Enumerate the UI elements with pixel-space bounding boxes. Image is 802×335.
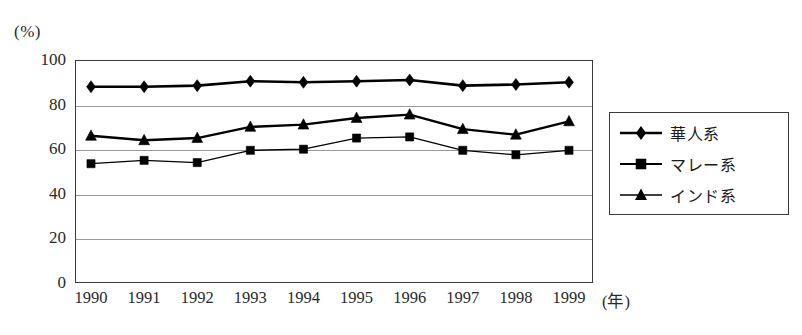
series-line (91, 137, 569, 164)
data-point-marker (458, 80, 467, 92)
y-tick-label: 100 (2, 50, 66, 70)
data-point-marker (193, 159, 201, 167)
data-point-marker (406, 133, 414, 141)
data-point-marker (352, 75, 361, 87)
x-tick-label: 1993 (234, 288, 267, 308)
data-point-marker (87, 81, 96, 93)
series-1 (87, 74, 574, 93)
y-tick-label: 40 (2, 184, 66, 204)
legend-item[interactable]: インド系 (618, 180, 736, 210)
data-point-marker (405, 74, 414, 86)
data-point-marker (511, 79, 520, 91)
y-tick-label: 80 (2, 95, 66, 115)
data-point-marker (512, 151, 520, 159)
x-tick-label: 1994 (287, 288, 320, 308)
data-point-marker (193, 80, 202, 92)
series-line (91, 115, 569, 141)
x-tick-label: 1998 (499, 288, 532, 308)
x-tick-label: 1991 (128, 288, 161, 308)
x-tick-label: 1995 (340, 288, 373, 308)
series-line (91, 80, 569, 87)
legend-marker-square-icon (618, 155, 664, 173)
y-tick-label: 60 (2, 139, 66, 159)
x-tick-label: 1990 (75, 288, 108, 308)
x-tick-label: 1999 (553, 288, 586, 308)
data-point-marker (87, 160, 95, 168)
y-tick-label: 20 (2, 228, 66, 248)
legend: 華人系マレー系インド系 (609, 112, 789, 215)
series-layer (75, 60, 593, 283)
legend-item[interactable]: 華人系 (618, 118, 720, 148)
legend-marker-triangle-icon (618, 186, 664, 204)
data-point-marker (246, 146, 254, 154)
series-2 (87, 133, 573, 168)
data-point-marker (565, 76, 574, 88)
x-tick-label: 1997 (446, 288, 479, 308)
x-tick-label: 1992 (181, 288, 214, 308)
legend-item[interactable]: マレー系 (618, 149, 736, 179)
chart-root: (%) 020406080100 19901991199219931994199… (0, 0, 802, 335)
legend-item-label: インド系 (670, 183, 736, 207)
y-axis-unit-label: (%) (14, 22, 41, 42)
x-tick-label: 1996 (393, 288, 426, 308)
data-point-marker (246, 75, 255, 87)
data-point-marker (564, 115, 575, 125)
data-point-marker (140, 81, 149, 93)
data-point-marker (353, 134, 361, 142)
y-tick-label: 0 (2, 273, 66, 293)
data-point-marker (299, 76, 308, 88)
series-3 (86, 109, 575, 145)
x-axis-tick-labels: 1990199119921993199419951996199719981999 (75, 288, 593, 312)
y-axis-tick-labels: 020406080100 (0, 60, 66, 283)
legend-marker-diamond-icon (618, 124, 664, 142)
legend-item-label: マレー系 (670, 152, 736, 176)
data-point-marker (459, 146, 467, 154)
x-axis-unit-label: (年) (602, 288, 630, 312)
data-point-marker (299, 145, 307, 153)
data-point-marker (565, 146, 573, 154)
legend-item-label: 華人系 (670, 121, 720, 145)
data-point-marker (140, 156, 148, 164)
